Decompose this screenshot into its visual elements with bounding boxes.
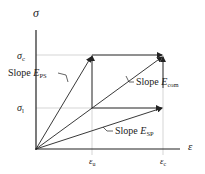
sigma-c-label: σc — [17, 50, 25, 63]
y-axis-label: σ — [33, 6, 40, 20]
epsilon-c-label: εc — [160, 156, 167, 167]
leader-eps — [58, 73, 68, 82]
sigma-l-label: σl — [17, 102, 24, 115]
stress-strain-diagram: σ ε σc σl εu εc Slope EPS Slope Ecom Slo… — [0, 0, 205, 174]
x-axis-label: ε — [188, 140, 193, 152]
leader-esp — [103, 127, 113, 131]
slope-eps-label: Slope EPS — [8, 67, 47, 79]
leader-ecom — [126, 76, 134, 82]
slope-esp-label: Slope ESP — [115, 125, 154, 137]
epsilon-u-label: εu — [89, 156, 96, 167]
line-eps — [36, 57, 91, 149]
slope-ecom-label: Slope Ecom — [136, 76, 179, 88]
